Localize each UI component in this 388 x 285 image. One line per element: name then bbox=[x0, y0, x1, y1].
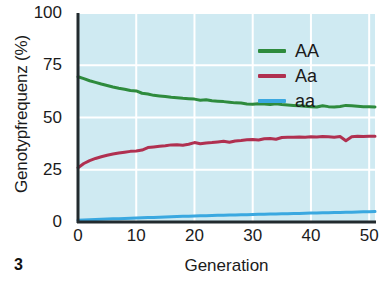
legend-label: aa bbox=[295, 92, 315, 110]
legend-item-aa: aa bbox=[258, 92, 319, 110]
legend-label: AA bbox=[295, 42, 319, 60]
chart-legend: AAAaaa bbox=[258, 42, 319, 110]
x-tick-label: 50 bbox=[344, 226, 388, 246]
legend-swatch-icon bbox=[258, 49, 286, 53]
x-tick-label: 10 bbox=[111, 226, 161, 246]
figure-genotype-frequency: Genotypfrequenz (%) 0255075100 010203040… bbox=[0, 0, 388, 285]
figure-number: 3 bbox=[14, 256, 23, 274]
x-tick-label: 40 bbox=[286, 226, 336, 246]
legend-item-AA: AA bbox=[258, 42, 319, 60]
x-axis-title: Generation bbox=[78, 256, 375, 276]
y-tick-label: 50 bbox=[6, 108, 62, 128]
y-tick-label: 75 bbox=[6, 55, 62, 75]
x-tick-label: 20 bbox=[169, 226, 219, 246]
legend-swatch-icon bbox=[258, 74, 286, 78]
legend-item-Aa: Aa bbox=[258, 67, 319, 85]
x-tick-label: 30 bbox=[228, 226, 278, 246]
x-tick-label: 0 bbox=[53, 226, 103, 246]
y-tick-label: 100 bbox=[6, 3, 62, 23]
legend-label: Aa bbox=[295, 67, 317, 85]
legend-swatch-icon bbox=[258, 99, 286, 103]
y-tick-label: 25 bbox=[6, 160, 62, 180]
